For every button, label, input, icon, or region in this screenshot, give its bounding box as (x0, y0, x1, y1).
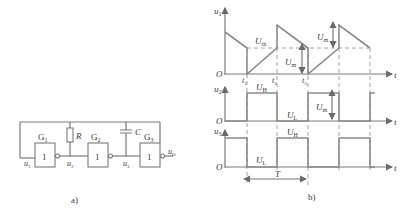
inverter-bubble-g1 (56, 154, 60, 158)
origin-label-3: O (216, 162, 223, 172)
um-label-1: Um (285, 57, 297, 68)
node-uo-label: uO (168, 147, 176, 157)
ul-label-2: UL (256, 155, 267, 166)
node-u2-label: u2 (67, 159, 74, 169)
u3-label: u3 (214, 126, 222, 137)
caption-a: a) (71, 195, 78, 205)
uh-label-2: UH (287, 127, 299, 138)
gate-g2-symbol: 1 (95, 152, 100, 162)
capacitor-label: C (135, 127, 142, 137)
um-label-2: Um (317, 32, 329, 43)
uth-label: Uth (255, 36, 266, 47)
t-axis-label-2: t (394, 117, 397, 127)
uh-label-1: UH (256, 82, 268, 93)
period-label: T (275, 169, 281, 179)
ul-label-1: UL (287, 110, 298, 121)
t3-label: t3 (302, 76, 307, 86)
u2-waveform (225, 93, 375, 121)
node-u3-label: u3 (123, 159, 130, 169)
t-axis-label-1: t (394, 70, 397, 80)
um-label-3: Um (316, 102, 328, 113)
gate-g2-label: G2 (91, 132, 101, 143)
gate-g3-symbol: 1 (147, 152, 152, 162)
gate-g1-label: G1 (38, 132, 48, 143)
capacitor-c (120, 130, 132, 133)
figure: 1 G1 R 1 G2 C 1 G3 u1 u2 u3 uO a) (0, 0, 403, 211)
resistor-r (67, 128, 73, 142)
inverter-bubble-g2 (109, 154, 113, 158)
waveform-diagram: u1 Uth Um Um O t t1 t2 t3 u2 UH UL Um O … (214, 6, 397, 202)
t-axis-label-3: t (394, 163, 397, 173)
inverter-bubble-g3 (161, 154, 165, 158)
gate-g3-label: G3 (144, 132, 154, 143)
caption-b: b) (308, 192, 316, 202)
u1-label: u1 (214, 6, 222, 17)
node-u1-label: u1 (24, 159, 31, 169)
gate-g1-symbol: 1 (42, 152, 47, 162)
u1-waveform (225, 25, 370, 74)
u3-waveform (225, 138, 375, 167)
t1-label: t1 (242, 76, 247, 86)
ring-oscillator-circuit: 1 G1 R 1 G2 C 1 G3 u1 u2 u3 uO a) (20, 122, 176, 205)
t2-label: t2 (272, 76, 277, 86)
u2-label: u2 (214, 84, 222, 95)
resistor-label: R (75, 131, 82, 141)
origin-label-2: O (216, 116, 223, 126)
origin-label-1: O (216, 69, 223, 79)
